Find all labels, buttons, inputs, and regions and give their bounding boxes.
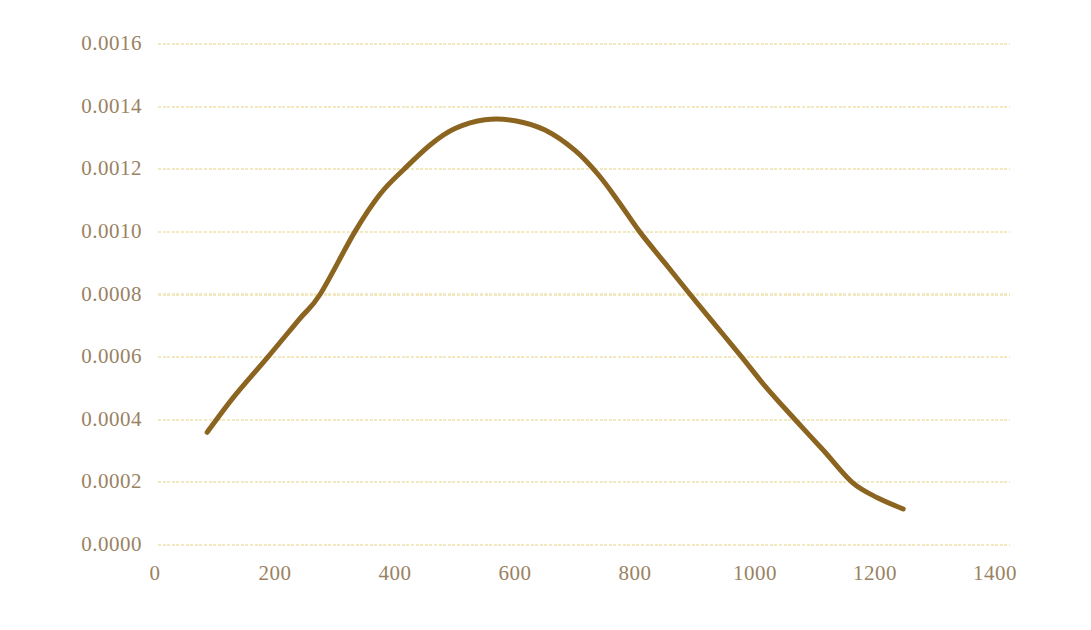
- x-tick-label: 200: [215, 563, 335, 584]
- gridlines: [158, 44, 1010, 545]
- x-tick-label: 800: [575, 563, 695, 584]
- y-tick-label: 0.0006: [0, 346, 142, 367]
- y-tick-label: 0.0014: [0, 96, 142, 117]
- x-tick-label: 1400: [935, 563, 1055, 584]
- data-series-group: [207, 119, 903, 509]
- y-tick-label: 0.0002: [0, 471, 142, 492]
- x-tick-label: 1000: [695, 563, 815, 584]
- x-tick-label: 0: [95, 563, 215, 584]
- y-tick-label: 0.0012: [0, 158, 142, 179]
- x-tick-label: 1200: [815, 563, 935, 584]
- chart-container: 0.00000.00020.00040.00060.00080.00100.00…: [0, 0, 1091, 630]
- series-line-0: [207, 119, 903, 509]
- y-tick-label: 0.0000: [0, 534, 142, 555]
- y-tick-label: 0.0004: [0, 409, 142, 430]
- y-tick-label: 0.0016: [0, 33, 142, 54]
- x-tick-label: 600: [455, 563, 575, 584]
- x-tick-label: 400: [335, 563, 455, 584]
- y-tick-label: 0.0010: [0, 221, 142, 242]
- plot-area: [0, 0, 1091, 630]
- y-tick-label: 0.0008: [0, 284, 142, 305]
